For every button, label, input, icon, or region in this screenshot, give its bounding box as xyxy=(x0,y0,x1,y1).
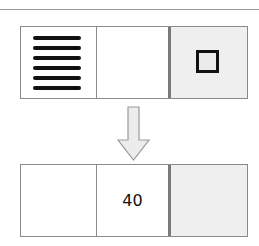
lines-icon xyxy=(33,36,81,96)
top-divider-line xyxy=(0,9,259,10)
down-arrow-icon xyxy=(117,106,151,162)
before-row xyxy=(20,26,248,99)
before-cell-3 xyxy=(171,27,247,98)
after-cell-3-value xyxy=(171,165,247,236)
after-cell-2-value: 40 xyxy=(97,165,168,236)
before-cell-1 xyxy=(21,27,97,98)
after-cell-2: 40 xyxy=(97,165,171,236)
after-cell-3 xyxy=(171,165,247,236)
after-row: 40 xyxy=(20,164,248,237)
square-icon xyxy=(196,50,219,73)
after-cell-1 xyxy=(21,165,97,236)
before-cell-2 xyxy=(97,27,171,98)
after-cell-1-value xyxy=(21,165,96,236)
before-cell-2-value xyxy=(97,27,168,98)
